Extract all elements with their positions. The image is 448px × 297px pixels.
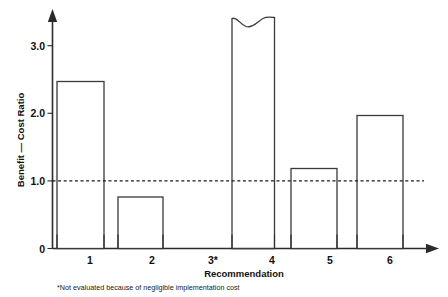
bar-recommendation-1 [57,82,104,249]
x-tick-label-2: 2 [149,254,155,266]
x-axis-arrow-icon [426,244,439,253]
x-axis-title: Recommendation [204,268,284,279]
y-tick-label-2: 2.0 [30,107,45,119]
bar-recommendation-2 [118,197,163,249]
bar-recommendation-4-broken [232,17,275,248]
x-tick-label-3: 3* [208,254,219,266]
y-tick-label-0: 0 [39,243,45,255]
x-tick-label-5: 5 [327,254,333,266]
bar-recommendation-5 [291,169,337,249]
y-axis-arrow-icon [48,9,57,22]
x-tick-label-4: 4 [269,254,275,266]
bar-recommendation-6 [357,116,403,249]
y-tick-label-1: 1.0 [30,175,45,187]
x-tick-label-1: 1 [87,254,93,266]
chart-footnote: *Not evaluated because of negligible imp… [57,283,240,292]
y-tick-label-3: 3.0 [30,40,45,52]
benefit-cost-ratio-chart: 0 1.0 2.0 3.0 Benefit — Cost Ratio [0,0,448,297]
x-tick-label-6: 6 [387,254,393,266]
chart-plot-area: 0 1.0 2.0 3.0 Benefit — Cost Ratio [0,0,448,297]
y-axis-title: Benefit — Cost Ratio [15,93,26,188]
